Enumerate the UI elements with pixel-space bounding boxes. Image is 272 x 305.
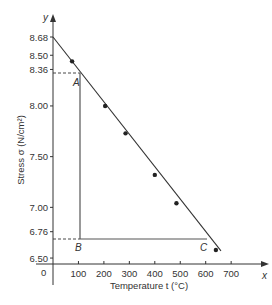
- y-tick-label: 8.00: [30, 100, 49, 111]
- y-axis-letter: y: [42, 12, 49, 23]
- data-point: [214, 248, 218, 252]
- data-point: [103, 104, 107, 108]
- stress-temperature-chart: y x 0 8.688.508.368.007.507.006.766.50 1…: [0, 0, 272, 305]
- x-axis-arrow-icon: [261, 261, 269, 267]
- data-points: [70, 59, 218, 252]
- origin-label: 0: [41, 267, 46, 278]
- x-tick-label: 300: [121, 268, 137, 279]
- point-label-A: A: [72, 77, 80, 88]
- data-point: [174, 201, 178, 205]
- point-label-C: C: [200, 242, 208, 253]
- data-point: [153, 173, 157, 177]
- x-tick-label: 700: [223, 268, 239, 279]
- x-axis-letter: x: [261, 270, 268, 281]
- y-tick-label: 7.50: [30, 151, 49, 162]
- y-ticks: 8.688.508.368.007.507.006.766.50: [30, 32, 54, 264]
- y-tick-label: 6.50: [30, 253, 49, 264]
- y-tick-label: 6.76: [30, 226, 49, 237]
- y-tick-label: 8.68: [30, 32, 49, 43]
- y-axis-arrow-icon: [50, 14, 56, 22]
- y-axis-label: Stress σ (N/cm²): [15, 115, 26, 185]
- x-tick-label: 400: [147, 268, 163, 279]
- y-tick-label: 8.36: [30, 64, 49, 75]
- x-tick-label: 500: [172, 268, 188, 279]
- x-tick-label: 200: [96, 268, 112, 279]
- data-point: [70, 59, 74, 63]
- y-tick-label: 7.00: [30, 202, 49, 213]
- data-point: [123, 131, 127, 135]
- x-tick-label: 600: [198, 268, 214, 279]
- fit-line: [53, 37, 221, 251]
- x-axis-label: Temperature t (°C): [110, 280, 188, 291]
- y-tick-label: 8.50: [30, 50, 49, 61]
- x-tick-label: 100: [71, 268, 87, 279]
- point-label-B: B: [75, 242, 82, 253]
